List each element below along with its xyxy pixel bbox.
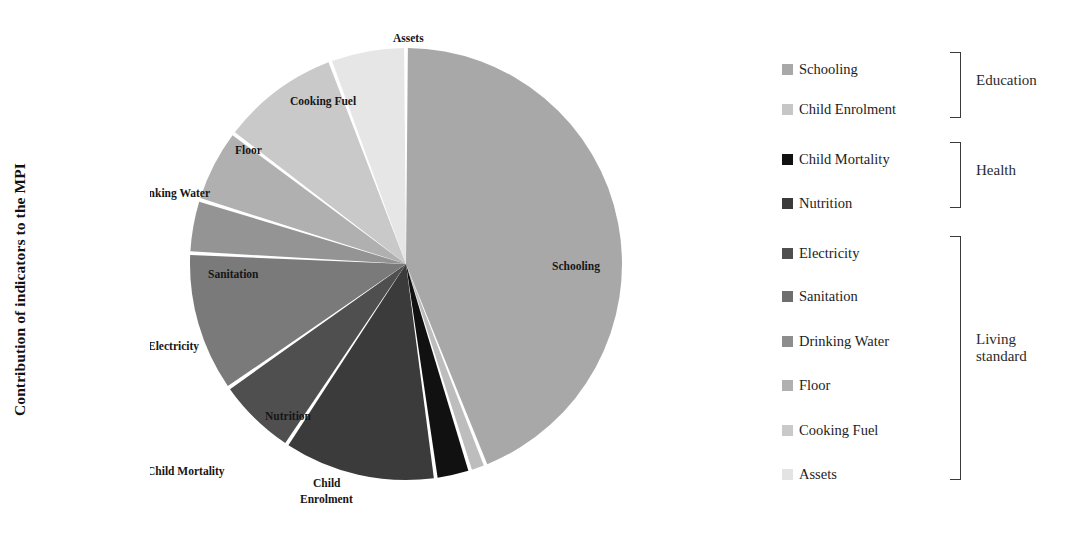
legend-item-label: Sanitation [799, 289, 858, 304]
slice-label-floor: Floor [235, 144, 262, 156]
legend-item-label: Assets [799, 467, 837, 482]
legend-group-bracket [950, 236, 961, 480]
legend-group-bracket [950, 142, 961, 208]
legend-item-label: Schooling [799, 62, 858, 77]
legend-swatch-icon [782, 198, 793, 209]
legend-item-label: Electricity [799, 246, 859, 261]
legend-item-cooking-fuel[interactable]: Cooking Fuel [782, 421, 878, 439]
legend: SchoolingChild EnrolmentChild MortalityN… [782, 44, 1092, 484]
legend-item-electricity[interactable]: Electricity [782, 244, 859, 262]
legend-swatch-icon [782, 425, 793, 436]
legend-item-label: Drinking Water [799, 334, 889, 349]
slice-label-assets: Assets [393, 32, 424, 44]
legend-swatch-icon [782, 291, 793, 302]
legend-item-label: Nutrition [799, 196, 852, 211]
legend-group-label-education: Education [976, 72, 1037, 89]
legend-item-floor[interactable]: Floor [782, 376, 830, 394]
legend-item-label: Cooking Fuel [799, 423, 878, 438]
legend-item-child-mortality[interactable]: Child Mortality [782, 150, 890, 168]
y-axis-title-text: Contribution of indicators to the MPI [11, 163, 29, 416]
legend-item-label: Floor [799, 378, 830, 393]
legend-item-label: Child Enrolment [799, 102, 896, 117]
legend-item-drinking-water[interactable]: Drinking Water [782, 332, 889, 350]
legend-item-child-enrolment[interactable]: Child Enrolment [782, 100, 896, 118]
legend-swatch-icon [782, 336, 793, 347]
slice-label-child-enrolment-line1: Child [313, 477, 341, 489]
slice-label-nutrition: Nutrition [265, 410, 312, 422]
slice-label-sanitation: Sanitation [208, 268, 259, 280]
legend-item-sanitation[interactable]: Sanitation [782, 287, 858, 305]
legend-swatch-icon [782, 154, 793, 165]
legend-swatch-icon [782, 64, 793, 75]
slice-label-drinking-water: Drinking Water [150, 187, 210, 200]
legend-item-label: Child Mortality [799, 152, 890, 167]
legend-group-bracket [950, 52, 961, 118]
legend-group-label-living-standard: Living standard [976, 331, 1027, 366]
legend-swatch-icon [782, 380, 793, 391]
legend-item-assets[interactable]: Assets [782, 465, 837, 483]
slice-label-schooling: Schooling [552, 260, 600, 273]
legend-swatch-icon [782, 248, 793, 259]
legend-item-schooling[interactable]: Schooling [782, 60, 858, 78]
pie-chart: Schooling Nutrition Child Mortality Chil… [150, 20, 670, 520]
legend-group-label-health: Health [976, 162, 1016, 179]
slice-label-child-mortality: Child Mortality [150, 465, 225, 478]
legend-swatch-icon [782, 104, 793, 115]
pie-chart-svg: Schooling Nutrition Child Mortality Chil… [150, 20, 670, 520]
slice-label-cooking-fuel: Cooking Fuel [290, 95, 356, 108]
legend-item-nutrition[interactable]: Nutrition [782, 194, 852, 212]
slice-label-electricity: Electricity [150, 340, 199, 353]
y-axis-title: Contribution of indicators to the MPI [0, 0, 40, 534]
legend-swatch-icon [782, 469, 793, 480]
slice-label-child-enrolment-line2: Enrolment [300, 493, 353, 505]
